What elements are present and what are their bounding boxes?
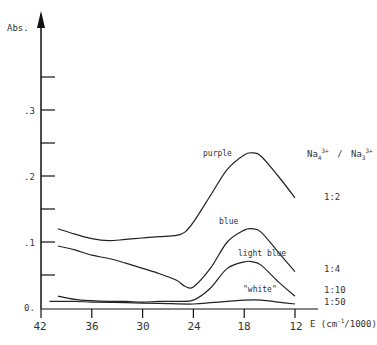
curve-label-white: "white" — [243, 286, 277, 294]
legend-separator: / — [337, 149, 342, 159]
x-tick-label-18: 18 — [237, 320, 250, 333]
y-tick-label-2: .2 — [24, 172, 35, 182]
legend-na4: Na — [307, 149, 318, 159]
ratio-label-1-4: 1:4 — [324, 265, 340, 274]
y-tick-label-1: .1 — [24, 238, 35, 248]
y-axis-arrow-icon — [37, 11, 45, 28]
series-lines — [50, 153, 296, 304]
x-ticks — [41, 309, 295, 318]
y-axis-label: Abs. — [7, 24, 29, 33]
legend-na3-sup: 3+ — [365, 147, 372, 154]
x-tick-label-36: 36 — [85, 320, 98, 333]
x-axis-label-text: E (cm — [310, 319, 337, 329]
legend-na4-sub: 4 — [318, 154, 322, 161]
x-tick-label-30: 30 — [136, 320, 149, 333]
y-ticks — [41, 77, 55, 308]
legend-na4-sup: 3+ — [321, 147, 328, 154]
series-line-light-blue — [58, 261, 295, 302]
series-line-purple — [58, 153, 295, 241]
x-tick-label-24: 24 — [187, 320, 200, 333]
ratio-label-1-10: 1:10 — [324, 286, 346, 295]
ratio-label-1-2: 1:2 — [324, 193, 340, 202]
x-tick-label-42: 42 — [33, 320, 46, 333]
legend-na3: Na — [351, 149, 362, 159]
curve-label-purple: purple — [203, 150, 232, 158]
x-axis-label-tail: /1000) — [344, 319, 377, 329]
legend-title: Na43+ / Na33+ — [307, 150, 373, 159]
y-tick-label-0: 0. — [24, 303, 35, 313]
legend-na3-sub: 3 — [362, 154, 366, 161]
ratio-label-1-50: 1:50 — [324, 298, 346, 307]
curve-label-light-blue: light blue — [238, 250, 286, 258]
x-tick-label-12: 12 — [289, 320, 302, 333]
series-line-blue — [58, 228, 295, 288]
y-tick-label-3: .3 — [24, 106, 35, 116]
x-axis-label: E (cm-1/1000) — [310, 320, 377, 329]
curve-label-blue: blue — [219, 218, 238, 226]
